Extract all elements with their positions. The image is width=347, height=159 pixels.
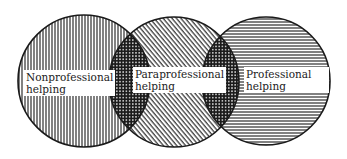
label-paraprofessional-line2: helping [135, 80, 224, 92]
label-nonprofessional: Nonprofessional helping [24, 70, 115, 96]
label-nonprofessional-line2: helping [26, 83, 113, 95]
label-nonprofessional-line1: Nonprofessional [26, 71, 113, 83]
label-paraprofessional-line1: Paraprofessional [135, 68, 224, 80]
label-professional-line1: Professional [246, 68, 311, 80]
label-professional-line2: helping [246, 80, 311, 92]
label-professional: Professional helping [244, 67, 329, 93]
label-paraprofessional: Paraprofessional helping [133, 67, 226, 93]
